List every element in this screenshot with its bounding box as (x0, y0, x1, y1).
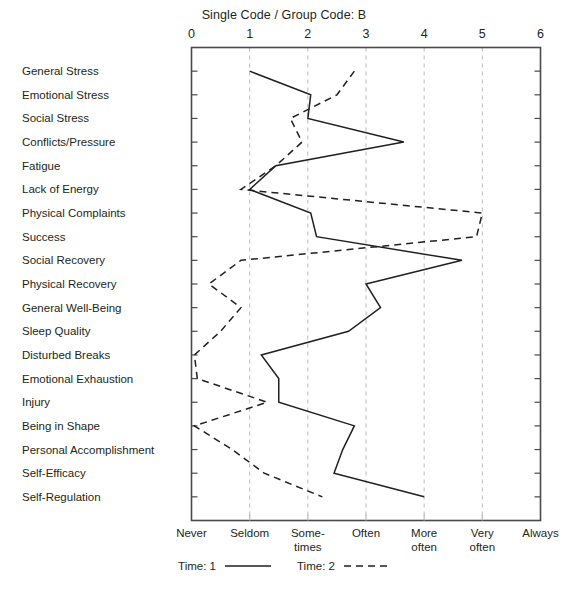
chart-container: Single Code / Group Code: B 0123456 Gene… (0, 0, 568, 589)
plot-area (0, 0, 568, 589)
chart-legend: Time: 1Time: 2 (0, 560, 568, 572)
legend-swatch-dashed (344, 561, 390, 571)
legend-label: Time: 2 (297, 560, 335, 572)
legend-entry-2: Time: 2 (297, 560, 390, 572)
legend-label: Time: 1 (178, 560, 216, 572)
legend-entry-1: Time: 1 (178, 560, 271, 572)
legend-swatch-solid (225, 561, 271, 571)
series-line-1 (250, 71, 462, 497)
series-line-2 (194, 71, 482, 497)
